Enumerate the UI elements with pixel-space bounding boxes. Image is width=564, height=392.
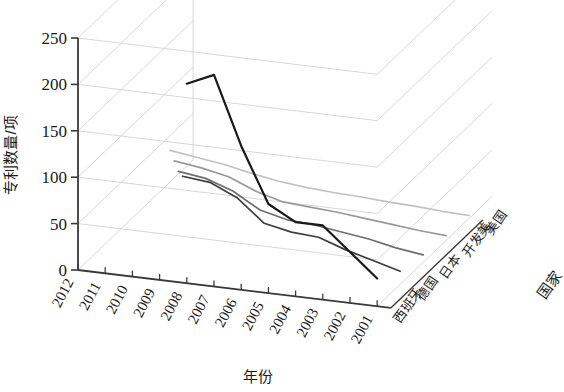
gridline-plane: [78, 67, 492, 213]
gridline-plane: [78, 0, 492, 74]
series-line-1: [183, 176, 401, 271]
gridline-plane: [78, 0, 492, 121]
x-axis-tick-label: 2007: [184, 292, 212, 326]
x-axis-tick-label: 2008: [157, 289, 185, 323]
x-axis-tick-label: 2005: [239, 299, 267, 333]
x-axis-tick-label: 2012: [48, 276, 76, 310]
y-axis-tick-label: 200: [42, 75, 68, 94]
x-axis-tick-label: 2009: [130, 286, 158, 320]
y-axis-tick-label: 50: [50, 215, 67, 234]
gridline-plane: [78, 21, 492, 167]
x-axis-tick-label: 2011: [76, 279, 104, 313]
y-axis-tick-label: 100: [42, 168, 68, 187]
series-line-2: [178, 171, 423, 255]
x-axis-tick-label: 2003: [293, 306, 321, 340]
x-axis-tick-label: 2002: [320, 309, 348, 343]
y-axis-tick-label: 150: [42, 122, 68, 141]
z-axis-title: 国家: [534, 267, 564, 301]
y-axis-tick-label: 250: [42, 29, 68, 48]
chart-3d-line-patents-by-country: 0501001502002502012201120102009200820072…: [0, 0, 564, 392]
series-label-4: 西班牙: [390, 285, 425, 326]
x-axis-tick-label: 2004: [266, 302, 294, 336]
x-axis-tick-label: 2001: [348, 312, 376, 346]
series-label-2: 日本: [436, 252, 463, 282]
series-label-1: 开发美: [459, 219, 494, 260]
x-axis-title: 年份: [243, 368, 273, 385]
y-axis-title: 专利数量/项: [2, 115, 19, 194]
x-axis-tick-label: 2010: [103, 282, 131, 316]
x-axis-tick-label: 2006: [212, 295, 240, 329]
gridline-plane: [78, 114, 492, 260]
chart-canvas: 0501001502002502012201120102009200820072…: [0, 0, 564, 392]
